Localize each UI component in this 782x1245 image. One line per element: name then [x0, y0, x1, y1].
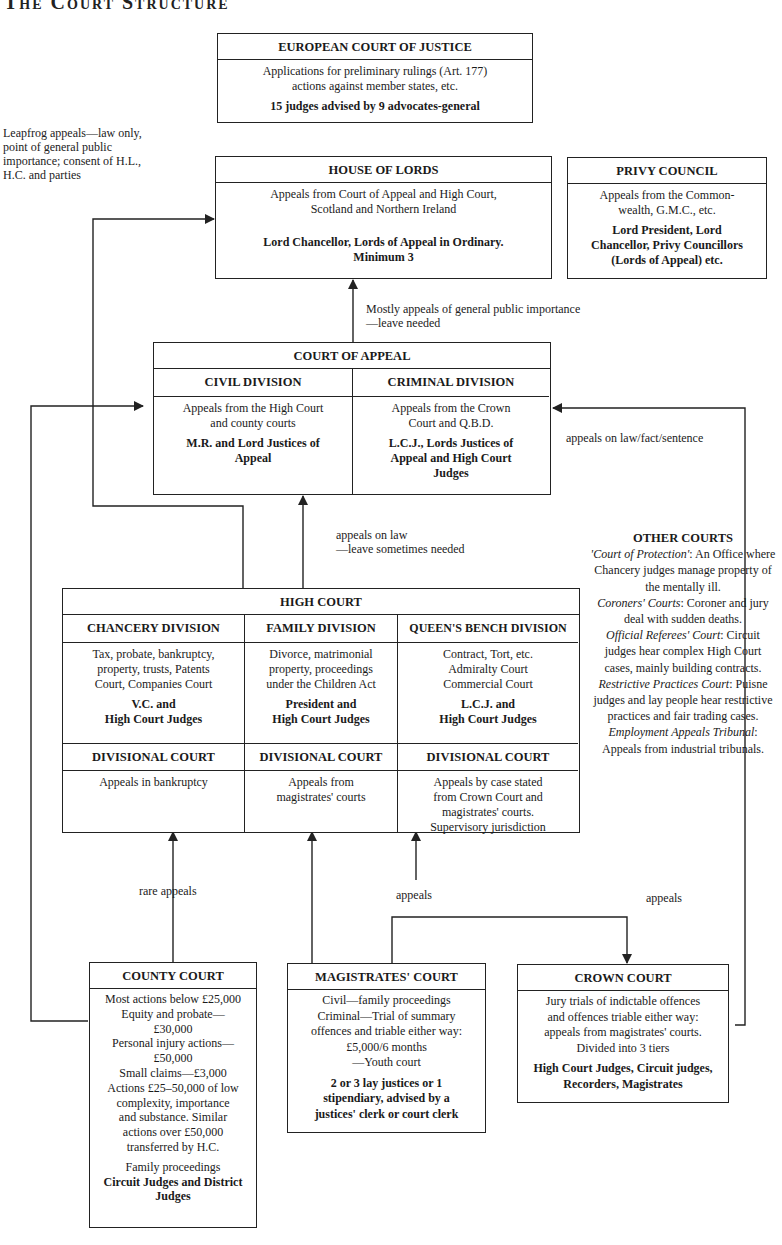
- chancery-line1: Tax, probate, bankruptcy,: [69, 647, 238, 662]
- county-court-box: COUNTY COURT Most actions below £25,000 …: [89, 962, 257, 1228]
- hol-appeal-note: Mostly appeals of general public importa…: [366, 302, 626, 330]
- pc-judges1: Lord President, Lord: [574, 223, 760, 238]
- family-divisional-title: DIVISIONAL COURT: [245, 743, 397, 771]
- other-courts-title: OTHER COURTS: [590, 530, 776, 546]
- county-line10: actions over £50,000: [94, 1125, 252, 1140]
- ca-criminal-division: CRIMINAL DIVISION Appeals from the Crown…: [353, 369, 549, 494]
- qbd-div-line4: Supervisory jurisdiction: [404, 820, 572, 835]
- employment-appeals-name: Employment Appeals Tribunal: [608, 725, 754, 739]
- crown-line3: appeals from magistrates' courts.: [522, 1025, 724, 1041]
- leapfrog-line3: importance; consent of H.L.,: [3, 154, 163, 168]
- hc-note-line2: —leave sometimes needed: [336, 542, 536, 556]
- mag-line4: £5,000/6 months: [292, 1040, 481, 1056]
- family-line3: under the Children Act: [251, 677, 391, 692]
- county-line2: Equity and probate—: [94, 1007, 252, 1022]
- magistrates-court-title: MAGISTRATES' COURT: [288, 964, 485, 990]
- hol-title: HOUSE OF LORDS: [216, 157, 551, 183]
- county-line8: complexity, importance: [94, 1096, 252, 1111]
- qbd-judges1: L.C.J. and: [404, 697, 572, 712]
- ca-civil-division: CIVIL DIVISION Appeals from the High Cou…: [154, 369, 353, 494]
- family-judges1: President and: [251, 697, 391, 712]
- court-of-protection-name: 'Court of Protection': [591, 547, 690, 561]
- pc-line1: Appeals from the Common-: [574, 188, 760, 203]
- high-court-box: HIGH COURT CHANCERY DIVISION Tax, probat…: [62, 588, 580, 833]
- civil-line2: and county courts: [160, 416, 346, 431]
- chancery-judges2: High Court Judges: [69, 712, 238, 727]
- county-judges2: Judges: [94, 1189, 252, 1204]
- crown-court-box: CROWN COURT Jury trials of indictable of…: [517, 964, 729, 1103]
- qbd-line1: Contract, Tort, etc.: [404, 647, 572, 662]
- county-line4: Personal injury actions—: [94, 1036, 252, 1051]
- leapfrog-line4: H.C. and parties: [3, 168, 163, 182]
- chancery-division: CHANCERY DIVISION Tax, probate, bankrupt…: [63, 615, 245, 832]
- chancery-judges1: V.C. and: [69, 697, 238, 712]
- county-line6: Small claims—£3,000: [94, 1066, 252, 1081]
- other-courts-panel: OTHER COURTS 'Court of Protection': An O…: [590, 530, 776, 757]
- privy-council-title: PRIVY COUNCIL: [568, 158, 766, 184]
- pc-line2: wealth, G.M.C., etc.: [574, 203, 760, 218]
- ecj-line2: actions against member states, etc.: [224, 79, 526, 94]
- coroners-courts: Coroners' Courts: Coroner and jury deal …: [590, 595, 776, 627]
- qbd-line3: Commercial Court: [404, 677, 572, 692]
- qbd-line2: Admiralty Court: [404, 662, 572, 677]
- mag-line5: —Youth court: [292, 1055, 481, 1071]
- queens-bench-division: QUEEN'S BENCH DIVISION Contract, Tort, e…: [398, 615, 578, 832]
- page-title: The Court Structure: [4, 0, 230, 12]
- county-line12: Family proceedings: [94, 1160, 252, 1175]
- court-of-protection: 'Court of Protection': An Office where C…: [590, 546, 776, 595]
- rare-appeals-label: rare appeals: [139, 884, 197, 898]
- pc-judges3: (Lords of Appeal) etc.: [574, 253, 760, 268]
- criminal-judges2: Appeal and High Court: [359, 451, 543, 466]
- family-div-line1: Appeals from: [251, 775, 391, 790]
- county-line1: Most actions below £25,000: [94, 992, 252, 1007]
- qbd-div-line1: Appeals by case stated: [404, 775, 572, 790]
- qbd-div-line3: magistrates' courts.: [404, 805, 572, 820]
- hol-judges1: Lord Chancellor, Lords of Appeal in Ordi…: [222, 235, 545, 250]
- mag-to-crown-arrow: [392, 917, 627, 965]
- leapfrog-line2: point of general public: [3, 140, 163, 154]
- mag-judges3: justices' clerk or court clerk: [292, 1107, 481, 1123]
- pc-judges2: Chancellor, Privy Councillors: [574, 238, 760, 253]
- family-line1: Divorce, matrimonial: [251, 647, 391, 662]
- house-of-lords-box: HOUSE OF LORDS Appeals from Court of App…: [215, 156, 552, 279]
- mag-judges1: 2 or 3 lay justices or 1: [292, 1076, 481, 1092]
- court-of-appeal-box: COURT OF APPEAL CIVIL DIVISION Appeals f…: [153, 342, 551, 495]
- county-court-title: COUNTY COURT: [90, 963, 256, 989]
- magistrates-court-box: MAGISTRATES' COURT Civil—family proceedi…: [287, 963, 486, 1133]
- mag-line2: Criminal—Trial of summary: [292, 1009, 481, 1025]
- crown-line4: Divided into 3 tiers: [522, 1041, 724, 1057]
- hol-line2: Scotland and Northern Ireland: [222, 202, 545, 217]
- criminal-judges3: Judges: [359, 466, 543, 481]
- official-referees-name: Official Referees' Court: [606, 628, 720, 642]
- county-line11: transferred by H.C.: [94, 1140, 252, 1155]
- mag-judges2: stipendiary, advised by a: [292, 1091, 481, 1107]
- county-line5: £50,000: [94, 1051, 252, 1066]
- county-line7: Actions £25–50,000 of low: [94, 1081, 252, 1096]
- chancery-div-line1: Appeals in bankruptcy: [69, 775, 238, 790]
- crown-court-title: CROWN COURT: [518, 965, 728, 991]
- hol-line1: Appeals from Court of Appeal and High Co…: [222, 187, 545, 202]
- family-title: FAMILY DIVISION: [245, 615, 397, 643]
- chancery-divisional-title: DIVISIONAL COURT: [63, 743, 244, 771]
- crown-line1: Jury trials of indictable offences: [522, 994, 724, 1010]
- hc-note-line1: appeals on law: [336, 528, 536, 542]
- mag-line3: offences and triable either way:: [292, 1024, 481, 1040]
- appeals-mid-label: appeals: [396, 888, 432, 902]
- qbd-divisional-title: DIVISIONAL COURT: [398, 743, 578, 771]
- qbd-judges2: High Court Judges: [404, 712, 572, 727]
- qbd-div-line2: from Crown Court and: [404, 790, 572, 805]
- hol-note-line2: —leave needed: [366, 316, 626, 330]
- crown-judges2: Recorders, Magistrates: [522, 1077, 724, 1093]
- family-div-line2: magistrates' courts: [251, 790, 391, 805]
- ca-title: COURT OF APPEAL: [154, 343, 550, 369]
- ecj-title: EUROPEAN COURT OF JUSTICE: [218, 34, 532, 60]
- leapfrog-line1: Leapfrog appeals—law only,: [3, 126, 163, 140]
- county-judges1: Circuit Judges and District: [94, 1175, 252, 1190]
- family-judges2: High Court Judges: [251, 712, 391, 727]
- hol-judges2: Minimum 3: [222, 250, 545, 265]
- ecj-box: EUROPEAN COURT OF JUSTICE Applications f…: [217, 33, 533, 123]
- criminal-line2: Court and Q.B.D.: [359, 416, 543, 431]
- county-line9: and substance. Similar: [94, 1110, 252, 1125]
- restrictive-practices-name: Restrictive Practices Court: [599, 677, 730, 691]
- hc-to-ca-note: appeals on law —leave sometimes needed: [336, 528, 536, 556]
